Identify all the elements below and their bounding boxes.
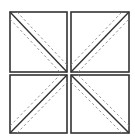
seam-line-dashed	[17, 12, 67, 65]
square-top-left	[10, 12, 67, 72]
diagonal-line	[10, 75, 67, 133]
seam-line-dashed	[71, 82, 122, 133]
diagonal-line	[71, 12, 129, 72]
seam-line-dashed	[10, 19, 60, 72]
diagonal-line	[10, 12, 67, 72]
seam-line-dashed	[78, 75, 129, 126]
seam-line-dashed	[10, 75, 60, 126]
square-bottom-left	[10, 75, 67, 133]
pinwheel-diagram	[0, 0, 135, 140]
diagonal-line	[71, 75, 129, 133]
seam-line-dashed	[17, 82, 67, 133]
square-bottom-right	[71, 75, 129, 133]
seam-line-dashed	[78, 19, 129, 72]
square-top-right	[71, 12, 129, 72]
seam-line-dashed	[71, 12, 122, 65]
